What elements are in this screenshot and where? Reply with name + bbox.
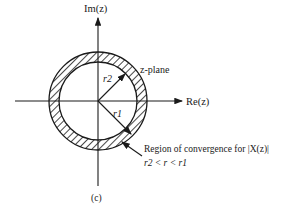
imaginary-axis-label: Im(z) — [84, 3, 108, 15]
z-plane-label: z-plane — [140, 64, 170, 75]
roc-condition: r2 < r < r1 — [144, 158, 187, 168]
radius-r1-label: r1 — [113, 108, 122, 119]
real-axis-label: Re(z) — [186, 96, 210, 108]
roc-caption: Region of convergence for |X(z)| — [144, 144, 269, 155]
z-plane-diagram: Im(z) Re(z) z-plane r2 r1 Region of conv… — [0, 0, 293, 212]
radius-r2-label: r2 — [103, 73, 112, 84]
subfigure-label: (c) — [91, 193, 102, 204]
